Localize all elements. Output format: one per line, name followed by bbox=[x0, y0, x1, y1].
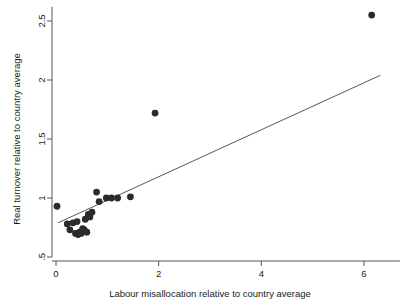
y-tick-label: 2 bbox=[36, 77, 47, 82]
data-point bbox=[93, 189, 100, 196]
tick-marks-group bbox=[47, 21, 364, 266]
y-tick-label: 1.5 bbox=[36, 132, 47, 145]
x-tick-label: 6 bbox=[361, 268, 366, 279]
y-tick-label: .5 bbox=[36, 253, 47, 261]
x-axis-title: Labour misallocation relative to country… bbox=[109, 288, 311, 299]
x-tick-label: 4 bbox=[259, 268, 264, 279]
scatter-plot-figure: .511.522.50246 Labour misallocation rela… bbox=[0, 0, 401, 305]
data-point bbox=[152, 110, 159, 117]
data-point bbox=[96, 198, 103, 205]
data-point bbox=[74, 218, 81, 225]
data-point bbox=[54, 203, 61, 210]
axes-group bbox=[52, 7, 400, 261]
data-points-group bbox=[54, 12, 375, 238]
y-axis-title: Real turnover relative to country averag… bbox=[11, 53, 22, 225]
tick-labels-group: .511.522.50246 bbox=[36, 14, 366, 279]
data-point bbox=[64, 221, 71, 228]
x-tick-label: 0 bbox=[53, 268, 58, 279]
data-point bbox=[89, 209, 96, 216]
data-point bbox=[66, 226, 73, 233]
x-tick-label: 2 bbox=[156, 268, 161, 279]
plot-canvas: .511.522.50246 Labour misallocation rela… bbox=[0, 0, 401, 305]
data-point bbox=[108, 195, 115, 202]
data-point bbox=[368, 12, 375, 19]
data-point bbox=[127, 193, 134, 200]
y-tick-label: 2.5 bbox=[36, 14, 47, 27]
data-point bbox=[114, 195, 121, 202]
y-tick-label: 1 bbox=[36, 195, 47, 200]
data-point bbox=[83, 229, 90, 236]
